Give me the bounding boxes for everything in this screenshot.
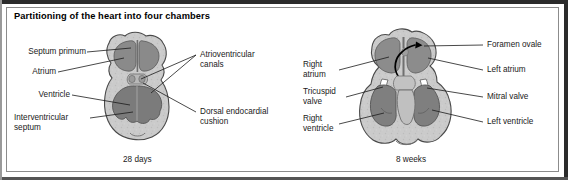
heart-8-weeks [360, 29, 452, 145]
label-right-atrium: Right atrium [303, 60, 343, 81]
right-ventricle-lumen [370, 85, 396, 126]
label-left-ventricle: Left ventricle [487, 117, 557, 127]
label-ventricle: Ventricle [14, 90, 70, 100]
label-right-ventricle: Right ventricle [303, 114, 349, 135]
label-mitral-valve: Mitral valve [487, 92, 555, 102]
label-atrioventricular-canals: Atrioventricular canals [200, 50, 286, 71]
label-interventricular-septum: Interventricular septum [14, 113, 92, 134]
heart-diagram-artwork [0, 0, 568, 180]
leader-left-atrium [428, 58, 483, 70]
label-septum-primum: Septum primum [14, 47, 86, 57]
av-canal-left-28 [129, 75, 135, 82]
label-dorsal-endocardial-cushion: Dorsal endocardial cushion [200, 107, 292, 128]
figure-frame: Partitioning of the heart into four cham… [0, 0, 568, 180]
label-atrium: Atrium [14, 67, 56, 77]
central-fibrous-body [393, 76, 415, 90]
caption-8-weeks: 8 weeks [396, 155, 426, 164]
label-tricuspid-valve: Tricuspid valve [303, 87, 349, 108]
caption-28-days: 28 days [123, 155, 152, 164]
label-foramen-ovale: Foramen ovale [487, 40, 561, 50]
label-left-atrium: Left atrium [487, 65, 553, 75]
